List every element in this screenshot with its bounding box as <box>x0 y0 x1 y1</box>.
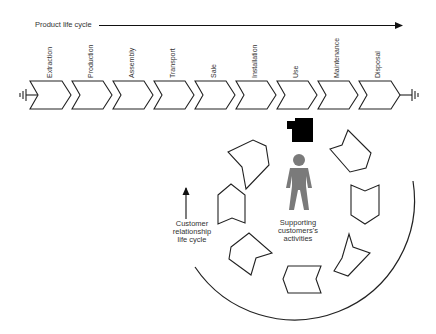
stage-label-production: Production <box>87 44 94 78</box>
supporting-label-line3: activities <box>284 234 313 243</box>
end-ground-icon <box>400 89 418 101</box>
chevron-use <box>277 81 317 109</box>
product-life-cycle-chevrons <box>30 81 400 109</box>
stage-label-sale: Sale <box>210 64 217 78</box>
chevron-disposal <box>359 81 400 109</box>
person-icon <box>286 154 312 210</box>
stage-label-assembly: Assembly <box>128 47 136 78</box>
stage-labels: Extraction Production Assembly Transport… <box>46 38 382 78</box>
chevron-transport <box>154 81 194 109</box>
stage-label-disposal: Disposal <box>374 51 382 78</box>
activity-shape-4 <box>283 266 321 293</box>
chevron-sale <box>195 81 235 109</box>
chevron-maintenance <box>318 81 358 109</box>
product-box-icon <box>287 118 313 142</box>
stage-label-use: Use <box>292 65 299 78</box>
customer-cycle-label-line3: life cycle <box>178 235 207 244</box>
activity-shape-6 <box>351 185 379 224</box>
stage-label-extraction: Extraction <box>46 47 53 78</box>
customer-cycle-label: Customer relationship life cycle <box>173 219 211 244</box>
activity-shape-5 <box>334 234 370 276</box>
stage-label-installation: Installation <box>251 44 258 78</box>
stage-label-maintenance: Maintenance <box>333 38 340 78</box>
activity-shape-1 <box>228 140 269 189</box>
activity-shape-7 <box>330 130 371 172</box>
supporting-activities-label: Supporting customers's activities <box>278 218 318 243</box>
lifecycle-diagram: Product life cycle Extraction Production… <box>0 0 436 334</box>
stage-label-transport: Transport <box>169 48 177 78</box>
activity-shape-2 <box>218 184 245 224</box>
chevron-installation <box>236 81 276 109</box>
chevron-assembly <box>113 81 153 109</box>
activity-shape-3 <box>229 233 272 275</box>
chevron-production <box>72 81 112 109</box>
product-life-cycle-title: Product life cycle <box>35 20 92 29</box>
